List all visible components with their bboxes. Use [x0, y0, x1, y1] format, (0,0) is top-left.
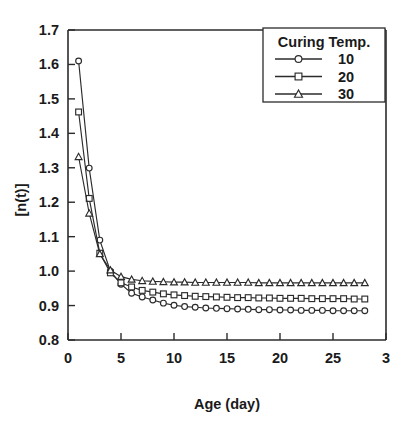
- legend-label-20: 20: [338, 69, 354, 85]
- data-point-10: [256, 307, 262, 313]
- data-point-20: [351, 296, 357, 302]
- data-point-30: [118, 273, 125, 279]
- data-point-10: [129, 290, 135, 296]
- y-tick-label: 0.8: [39, 332, 59, 348]
- y-tick-label: 1.0: [39, 263, 59, 279]
- data-point-20: [341, 296, 347, 302]
- legend-title: Curing Temp.: [278, 34, 370, 50]
- data-point-20: [224, 294, 230, 300]
- data-point-10: [277, 307, 283, 313]
- y-axis-ticks: 0.80.91.01.11.21.31.41.51.61.7: [39, 22, 75, 348]
- x-tick-label: 3: [382, 350, 390, 366]
- data-point-20: [256, 295, 262, 301]
- y-axis-title: [n(t)]: [13, 183, 29, 216]
- data-point-20: [235, 295, 241, 301]
- data-point-10: [161, 300, 167, 306]
- data-point-20: [139, 288, 145, 294]
- data-point-10: [86, 165, 92, 171]
- data-point-20: [129, 284, 135, 290]
- data-point-20: [320, 296, 326, 302]
- data-point-10: [309, 307, 315, 313]
- data-point-10: [298, 307, 304, 313]
- data-point-30: [75, 153, 82, 159]
- x-axis-ticks: 05101520253: [64, 333, 390, 366]
- square-marker-icon: [295, 73, 302, 80]
- data-point-20: [298, 295, 304, 301]
- legend-label-10: 10: [338, 51, 354, 67]
- data-point-20: [288, 295, 294, 301]
- line-chart: 0.80.91.01.11.21.31.41.51.61.7 051015202…: [0, 0, 411, 427]
- x-axis-title: Age (day): [194, 396, 260, 412]
- y-tick-label: 1.6: [39, 56, 59, 72]
- legend-label-30: 30: [338, 86, 354, 102]
- data-point-20: [171, 292, 177, 298]
- data-point-20: [182, 293, 188, 299]
- legend-entries: 102030: [275, 51, 354, 102]
- data-point-10: [182, 304, 188, 310]
- series-30: [75, 153, 368, 285]
- data-point-10: [192, 304, 198, 310]
- x-tick-label: 5: [117, 350, 125, 366]
- data-point-20: [267, 295, 273, 301]
- data-point-20: [192, 293, 198, 299]
- data-point-20: [150, 289, 156, 295]
- data-point-10: [214, 305, 220, 311]
- chart-figure: 0.80.91.01.11.21.31.41.51.61.7 051015202…: [0, 0, 411, 427]
- data-point-10: [351, 308, 357, 314]
- series-20: [76, 109, 368, 302]
- data-point-20: [362, 296, 368, 302]
- data-point-20: [277, 295, 283, 301]
- y-tick-label: 1.4: [39, 125, 59, 141]
- data-point-20: [161, 291, 167, 297]
- data-point-20: [245, 295, 251, 301]
- y-tick-label: 0.9: [39, 298, 59, 314]
- data-point-10: [330, 308, 336, 314]
- series-line-20: [79, 112, 365, 299]
- data-point-10: [288, 307, 294, 313]
- y-tick-label: 1.3: [39, 160, 59, 176]
- series-line-30: [79, 157, 365, 283]
- y-tick-label: 1.5: [39, 91, 59, 107]
- y-tick-label: 1.7: [39, 22, 59, 38]
- data-point-10: [76, 58, 82, 64]
- data-point-10: [341, 308, 347, 314]
- data-point-10: [171, 302, 177, 308]
- data-point-20: [309, 296, 315, 302]
- data-point-20: [214, 294, 220, 300]
- data-point-10: [150, 297, 156, 303]
- data-point-10: [320, 307, 326, 313]
- x-tick-label: 15: [219, 350, 235, 366]
- data-point-10: [224, 306, 230, 312]
- x-tick-label: 10: [166, 350, 182, 366]
- data-point-10: [235, 306, 241, 312]
- chart-legend: Curing Temp. 102030: [263, 28, 385, 102]
- x-tick-label: 25: [325, 350, 341, 366]
- y-tick-label: 1.1: [39, 229, 59, 245]
- data-point-10: [245, 306, 251, 312]
- data-point-10: [139, 294, 145, 300]
- data-point-10: [203, 305, 209, 311]
- data-point-20: [203, 294, 209, 300]
- data-point-20: [330, 296, 336, 302]
- x-tick-label: 20: [272, 350, 288, 366]
- data-point-20: [76, 109, 82, 115]
- y-tick-label: 1.2: [39, 194, 59, 210]
- data-point-20: [118, 280, 124, 286]
- circle-marker-icon: [295, 56, 302, 63]
- data-point-10: [362, 308, 368, 314]
- x-tick-label: 0: [64, 350, 72, 366]
- data-point-10: [267, 307, 273, 313]
